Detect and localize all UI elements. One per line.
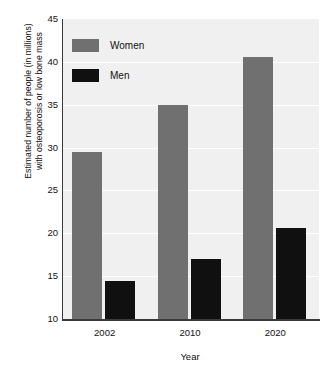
bar-men-2020	[276, 228, 306, 319]
gridline	[63, 148, 319, 149]
x-axis-tick-label-2020: 2020	[245, 327, 305, 338]
bar-women-2020	[243, 57, 273, 319]
bar-men-2002	[105, 281, 135, 319]
y-axis-tick-label: 25	[22, 185, 58, 195]
x-axis-title: Year	[62, 351, 318, 362]
legend-label-women: Women	[110, 40, 144, 51]
y-axis-tick-label: 35	[22, 100, 58, 110]
x-axis-line	[62, 319, 320, 321]
legend-item-men: Men	[72, 66, 182, 84]
gridline	[63, 105, 319, 106]
bar-chart: Estimated number of people (in millions)…	[0, 0, 324, 368]
legend-item-women: Women	[72, 36, 182, 54]
y-axis-tick-label: 15	[22, 271, 58, 281]
y-axis-tick-labels: 4540353025201510	[18, 0, 58, 368]
legend-swatch-men-icon	[72, 69, 99, 82]
y-axis-tick-label: 40	[22, 57, 58, 67]
bar-men-2010	[191, 259, 221, 319]
y-axis-tick-label: 30	[22, 143, 58, 153]
legend: Women Men	[72, 36, 182, 96]
bar-women-2002	[72, 152, 102, 319]
bar-women-2010	[158, 105, 188, 319]
y-axis-tick-label: 20	[22, 228, 58, 238]
y-axis-tick-label: 10	[22, 314, 58, 324]
x-axis-tick-label-2002: 2002	[75, 327, 135, 338]
x-axis-tick-label-2010: 2010	[160, 327, 220, 338]
legend-swatch-women-icon	[72, 39, 99, 52]
y-axis-tick-label: 45	[22, 14, 58, 24]
legend-label-men: Men	[110, 70, 129, 81]
